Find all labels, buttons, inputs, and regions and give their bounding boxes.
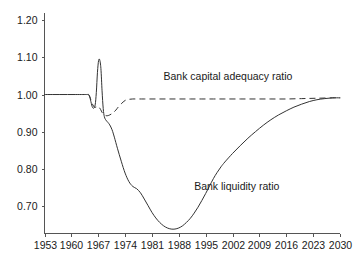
x-tick-label: 1981 [141, 239, 165, 251]
y-tick-label: 1.10 [17, 51, 38, 63]
line-chart: 1.201.101.000.900.800.70 195319601967197… [0, 0, 354, 261]
x-tick-label: 1953 [34, 239, 58, 251]
y-tick-label: 1.00 [17, 89, 38, 101]
series-label-1: Bank liquidity ratio [194, 180, 279, 192]
x-tick-label: 1960 [60, 239, 84, 251]
y-tick-label: 0.80 [17, 163, 38, 175]
x-tick-label: 2023 [302, 239, 326, 251]
series-annotations: Bank liquidity ratioBank capital adequac… [163, 70, 292, 192]
y-tick-label: 1.20 [17, 14, 38, 26]
x-tick-label: 1988 [168, 239, 192, 251]
x-axis-ticks: 1953196019671974198119881995200220092016… [34, 234, 353, 251]
y-tick-label: 0.70 [17, 200, 38, 212]
y-tick-label: 0.90 [17, 126, 38, 138]
x-tick-label: 1995 [195, 239, 219, 251]
series-label-2: Bank capital adequacy ratio [163, 70, 292, 82]
series-line-1 [45, 59, 341, 229]
x-tick-label: 2016 [275, 239, 299, 251]
x-tick-label: 2009 [248, 239, 272, 251]
series-layer [45, 59, 341, 229]
x-tick-label: 2030 [329, 239, 353, 251]
y-axis-ticks: 1.201.101.000.900.800.70 [17, 14, 44, 212]
x-tick-label: 1974 [114, 239, 138, 251]
x-tick-label: 1967 [87, 239, 111, 251]
series-line-2 [88, 95, 340, 116]
axis-lines [45, 13, 341, 234]
chart-container: 1.201.101.000.900.800.70 195319601967197… [0, 0, 354, 261]
x-tick-label: 2002 [222, 239, 246, 251]
